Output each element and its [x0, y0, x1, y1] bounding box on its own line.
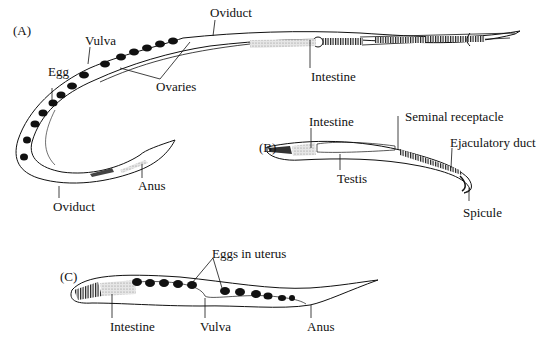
label-c-intestine: Intestine: [110, 320, 155, 333]
panel-label-b: (B): [259, 141, 276, 154]
panel-label-c: (C): [60, 270, 77, 283]
label-c-eggs-in-uterus: Eggs in uterus: [212, 247, 286, 260]
label-a-vulva: Vulva: [85, 34, 116, 47]
label-a-ovaries: Ovaries: [156, 80, 196, 93]
label-b-testis: Testis: [337, 172, 367, 185]
label-b-seminal-receptacle: Seminal receptacle: [405, 110, 504, 123]
label-a-anus: Anus: [138, 179, 165, 192]
label-b-spicule: Spicule: [463, 206, 502, 219]
nematode-anatomy-figure: (A) Oviduct Vulva Egg Ovaries Intestine …: [0, 0, 540, 341]
figure-artwork: [0, 0, 540, 341]
label-c-anus: Anus: [307, 320, 334, 333]
label-c-vulva: Vulva: [200, 320, 231, 333]
label-b-intestine: Intestine: [309, 115, 354, 128]
label-a-intestine: Intestine: [311, 70, 356, 83]
worm-b-male: [267, 141, 471, 193]
panel-label-a: (A): [13, 24, 31, 37]
label-a-oviduct-bottom: Oviduct: [53, 200, 95, 213]
worm-a-female: [16, 31, 520, 183]
label-b-ejaculatory-duct: Ejaculatory duct: [450, 136, 536, 149]
label-a-egg: Egg: [48, 65, 69, 78]
label-a-oviduct-top: Oviduct: [210, 6, 252, 19]
